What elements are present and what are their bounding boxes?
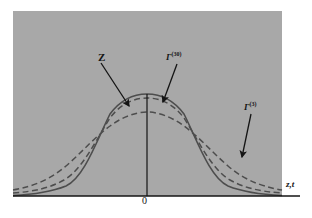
x-axis-label: z,t bbox=[286, 180, 294, 189]
annotation-arrow-gamma3 bbox=[242, 114, 251, 157]
curve-label-gamma3: Γ(3) bbox=[244, 101, 256, 112]
plot-graphics bbox=[0, 0, 312, 218]
gamma3-superscript: (3) bbox=[249, 101, 256, 107]
origin-tick-label: 0 bbox=[142, 196, 147, 206]
figure-container: Z Γ(30) Γ(3) z,t 0 bbox=[0, 0, 312, 218]
curve-label-z: Z bbox=[98, 52, 105, 63]
annotation-arrow-z bbox=[101, 63, 129, 106]
annotation-arrow-gamma30 bbox=[163, 64, 177, 102]
curve-label-gamma30: Γ(30) bbox=[166, 51, 181, 62]
gamma30-superscript: (30) bbox=[171, 51, 181, 57]
